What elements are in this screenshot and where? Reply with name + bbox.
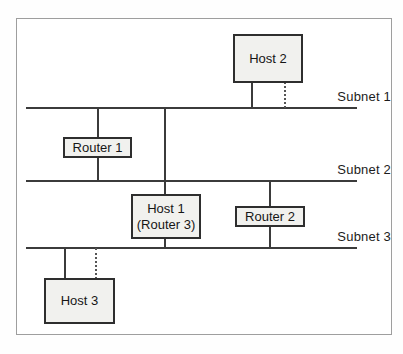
node-host2: Host 2 — [233, 34, 303, 83]
subnet-2-line — [26, 180, 357, 182]
node-host2-label: Host 2 — [249, 51, 287, 67]
subnet-1-label: Subnet 1 — [318, 89, 391, 104]
node-host3: Host 3 — [44, 278, 115, 324]
host2-subnet1-link-dotted — [284, 82, 286, 108]
node-router1: Router 1 — [63, 137, 132, 158]
node-host3-label: Host 3 — [61, 293, 99, 309]
node-router2: Router 2 — [235, 206, 305, 227]
host3-subnet3-link-dotted — [95, 248, 97, 279]
host1-subnet1-link — [164, 108, 166, 195]
node-host1-router3: Host 1 (Router 3) — [131, 194, 201, 239]
subnet-3-label: Subnet 3 — [318, 229, 391, 244]
subnet-3-line — [26, 247, 357, 249]
node-host1-sublabel: (Router 3) — [137, 217, 196, 233]
node-router1-label: Router 1 — [73, 140, 123, 156]
subnet-2-label: Subnet 2 — [318, 162, 391, 177]
host3-subnet3-link-solid — [64, 248, 66, 279]
node-host1-label: Host 1 — [147, 201, 185, 217]
node-router2-label: Router 2 — [245, 209, 295, 225]
subnet-1-line — [26, 107, 357, 109]
network-diagram: Subnet 1 Subnet 2 Subnet 3 Host 2 Router… — [0, 0, 403, 354]
host2-subnet1-link-solid — [251, 82, 253, 108]
